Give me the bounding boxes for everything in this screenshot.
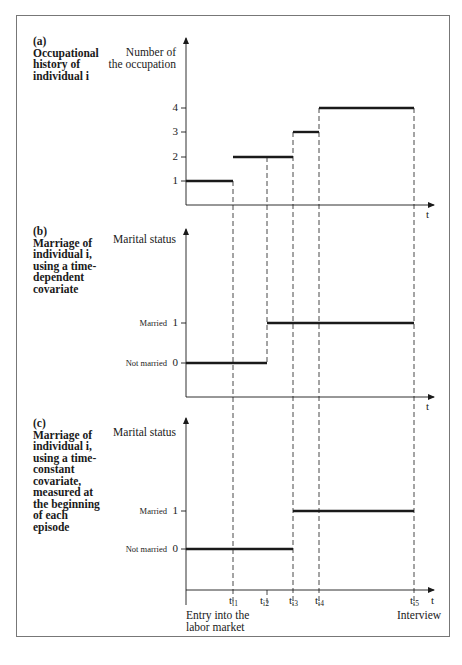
panel-a-title-line: individual i xyxy=(33,71,99,83)
tick-value: 0 xyxy=(173,542,179,554)
panel-b-xlabel: t xyxy=(426,400,429,412)
tick-value: 0 xyxy=(173,356,179,368)
xtick-t-i1: ti1 xyxy=(229,594,238,608)
episode-boundaries xyxy=(233,108,414,605)
ylabel-line: Number of xyxy=(109,47,176,59)
panel-a-ytick-3: 3 xyxy=(173,126,179,137)
panel-b-series xyxy=(186,323,414,363)
panel-b-ylabel: Marital status xyxy=(113,234,176,246)
entry-caption: Entry into the labor market xyxy=(186,610,249,633)
tick-sub: i4 xyxy=(318,599,324,608)
caption-line: labor market xyxy=(186,622,249,634)
panel-a-label: (a) xyxy=(33,36,99,48)
tick-value: 1 xyxy=(173,316,179,328)
panel-b-title-line: individual i, xyxy=(33,249,96,261)
panel-c-title-line: measured at xyxy=(33,487,100,499)
panel-a-ytick-4: 4 xyxy=(173,102,179,113)
panel-b-title: (b) Marriage of individual i, using a ti… xyxy=(33,226,96,295)
interview-caption: Interview xyxy=(397,610,441,622)
panel-b-axes xyxy=(181,229,434,397)
panel-c-series xyxy=(186,511,414,549)
tick-sub: i1 xyxy=(232,599,238,608)
panel-c-title: (c) Marriage of individual i, using a ti… xyxy=(33,418,100,533)
panel-a-title-line: history of xyxy=(33,59,99,71)
panel-c-xlabel: t xyxy=(431,594,434,606)
ylabel-line: the occupation xyxy=(109,59,176,71)
panel-b-title-line: covariate xyxy=(33,284,96,296)
xtick-t-i5: ti5 xyxy=(410,594,419,608)
panel-c-title-line: episode xyxy=(33,522,100,534)
tick-text: Not married xyxy=(126,544,167,554)
panel-c-title-line: constant xyxy=(33,464,100,476)
tick-text: Married xyxy=(140,318,167,328)
panel-c-ylabel: Marital status xyxy=(113,427,176,439)
xtick-t-i3: ti3 xyxy=(289,594,298,608)
panel-c-ytick-not-married: Not married 0 xyxy=(126,543,178,555)
tick-text: Married xyxy=(140,506,167,516)
panel-a-xlabel: t xyxy=(426,208,429,220)
timeline-chart xyxy=(0,0,462,665)
tick-sub: i3 xyxy=(292,599,298,608)
caption-line: Entry into the xyxy=(186,610,249,622)
panel-a-ytick-1: 1 xyxy=(173,175,179,186)
panel-c-title-line: individual i, xyxy=(33,441,100,453)
panel-a-series xyxy=(186,108,414,181)
xtick-t-i2: ti2 xyxy=(260,594,269,608)
tick-sub: i2 xyxy=(263,599,269,608)
panel-b-ytick-married: Married 1 xyxy=(140,317,178,329)
panel-b-title-line: dependent xyxy=(33,272,96,284)
panel-a-ytick-2: 2 xyxy=(173,151,179,162)
panel-c-ytick-married: Married 1 xyxy=(140,505,178,517)
panel-c-label: (c) xyxy=(33,418,100,430)
panel-b-label: (b) xyxy=(33,226,96,238)
tick-text: Not married xyxy=(126,358,167,368)
xtick-t-i4: ti4 xyxy=(315,594,324,608)
tick-value: 1 xyxy=(173,504,179,516)
panel-a-ylabel: Number of the occupation xyxy=(109,47,176,70)
panel-c-title-line: of each xyxy=(33,510,100,522)
panel-a-title: (a) Occupational history of individual i xyxy=(33,36,99,82)
tick-sub: i5 xyxy=(413,599,419,608)
panel-b-ytick-not-married: Not married 0 xyxy=(126,357,178,369)
